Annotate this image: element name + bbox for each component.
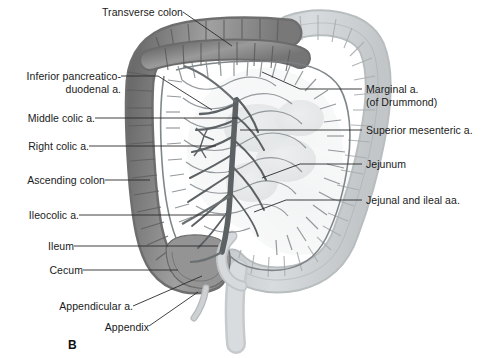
label-jejunal-and-ileal-aa: Jejunal and ileal aa.	[366, 194, 482, 207]
label-inferior-pancreaticoduodenal-a: Inferior pancreatico- duodenal a.	[4, 70, 121, 95]
transverse-colon-structure	[150, 42, 300, 71]
label-ileum: Ileum	[4, 240, 74, 253]
panel-letter: B	[68, 338, 77, 352]
label-ascending-colon: Ascending colon	[4, 174, 105, 187]
label-marginal-a: Marginal a. (of Drummond)	[366, 83, 480, 108]
label-cecum: Cecum	[4, 264, 83, 277]
label-jejunum: Jejunum	[366, 158, 482, 171]
label-right-colic-a: Right colic a.	[4, 140, 89, 153]
label-middle-colic-a: Middle colic a.	[4, 112, 95, 125]
label-appendix: Appendix	[4, 321, 149, 334]
figure-panel-b: Transverse colon Inferior pancreatico- d…	[0, 0, 482, 358]
label-appendicular-a: Appendicular a.	[4, 300, 133, 313]
label-transverse-colon: Transverse colon	[97, 6, 183, 19]
label-superior-mesenteric-a: Superior mesenteric a.	[366, 124, 482, 137]
label-ileocolic-a: Ileocolic a.	[4, 209, 79, 222]
